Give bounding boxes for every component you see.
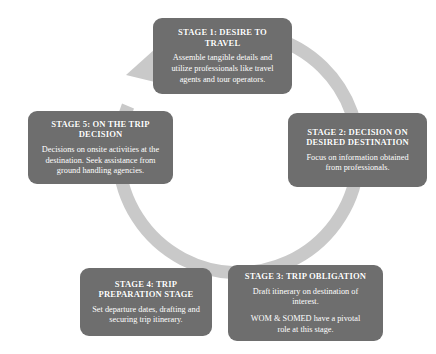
stage-3-body-1: Draft itinerary on destination of intere… bbox=[253, 287, 359, 309]
stage-box-3[interactable]: STAGE 3: TRIP OBLIGATION Draft itinerary… bbox=[228, 265, 383, 341]
stage-2-body-1: Focus on information obtained from profe… bbox=[306, 153, 408, 175]
stage-2-title: STAGE 2: DECISION ON DESIRED DESTINATION bbox=[306, 127, 409, 148]
stage-4-body-1: Set departure dates, drafting and securi… bbox=[92, 305, 200, 327]
diagram-canvas: STAGE 1: DESIRE TO TRAVEL Assemble tangi… bbox=[0, 0, 436, 354]
stage-3-title: STAGE 3: TRIP OBLIGATION bbox=[245, 271, 366, 281]
stage-box-4[interactable]: STAGE 4: TRIP PREPARATION STAGE Set depa… bbox=[80, 268, 212, 336]
stage-box-1[interactable]: STAGE 1: DESIRE TO TRAVEL Assemble tangi… bbox=[153, 18, 292, 94]
stage-3-body-2: WOM & SOMED have a pivotal role at this … bbox=[251, 314, 360, 336]
stage-box-2[interactable]: STAGE 2: DECISION ON DESIRED DESTINATION… bbox=[288, 113, 427, 187]
stage-1-body-1: Assemble tangible details and utilize pr… bbox=[171, 53, 273, 85]
stage-1-title: STAGE 1: DESIRE TO TRAVEL bbox=[178, 27, 267, 48]
stage-5-title: STAGE 5: ON THE TRIP DECISION bbox=[51, 119, 150, 140]
stage-box-5[interactable]: STAGE 5: ON THE TRIP DECISION Decisions … bbox=[28, 111, 173, 184]
stage-4-title: STAGE 4: TRIP PREPARATION STAGE bbox=[99, 279, 194, 300]
stage-5-body-1: Decisions on onsite activities at the de… bbox=[42, 145, 159, 177]
